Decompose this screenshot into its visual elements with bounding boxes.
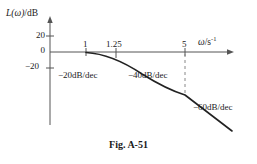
- x-axis-label-main: ω: [198, 37, 205, 47]
- x-tick-label-5: 5: [182, 40, 187, 49]
- figure-caption: Fig. A-51: [0, 139, 257, 150]
- y-tick-label-0: 0: [19, 46, 45, 55]
- x-axis-label: ω/s-1: [198, 36, 216, 48]
- y-tick-label-minus-20: −20: [13, 62, 39, 71]
- y-axis-arrowhead: [47, 16, 52, 23]
- x-tick-label-1-25: 1.25: [106, 40, 122, 49]
- slope-annotation-minus-20: −20dB/dec: [58, 71, 98, 80]
- x-axis-arrowhead: [227, 49, 234, 54]
- y-axis-label-main: L(ω): [6, 8, 24, 18]
- x-axis-label-exponent: -1: [211, 35, 216, 42]
- magnitude-curve: [86, 53, 232, 132]
- slope-annotation-minus-60: −60dB/dec: [193, 103, 233, 112]
- y-axis-label-unit: /dB: [24, 8, 38, 18]
- figure-container: L(ω)/dB ω/s-1 20 0 −20 1 1.25 5 −20dB/de…: [0, 0, 257, 164]
- y-tick-label-20: 20: [19, 31, 45, 40]
- slope-annotation-minus-40: −40dB/dec: [128, 71, 168, 80]
- y-axis-label: L(ω)/dB: [6, 9, 38, 19]
- x-tick-label-1: 1: [83, 40, 88, 49]
